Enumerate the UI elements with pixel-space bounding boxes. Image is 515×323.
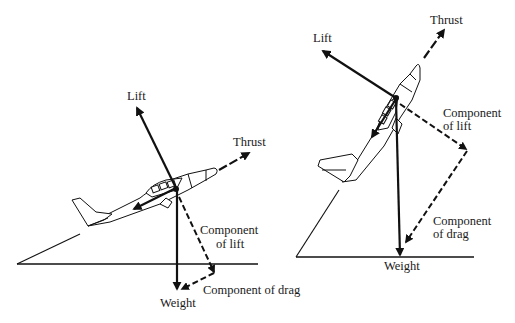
right-airplane-icon — [318, 64, 420, 182]
left-weight-label: Weight — [160, 296, 196, 310]
left-component-of-lift-label-2: of lift — [216, 237, 245, 251]
right-weight-label: Weight — [384, 259, 420, 273]
right-component-of-lift-label-2: of lift — [443, 119, 472, 133]
left-component-of-lift-label-1: Component — [200, 223, 259, 237]
left-airplane-icon — [72, 168, 217, 226]
right-lift-arrow — [323, 51, 396, 98]
right-thrust-label: Thrust — [430, 13, 463, 27]
left-component-of-drag-label: Component of drag — [203, 283, 301, 297]
right-component-of-drag-label-1: Component — [433, 214, 492, 228]
right-component-of-drag-label-2: of drag — [433, 227, 469, 241]
left-panel: Lift Thrust Component of lift Component … — [17, 89, 301, 310]
left-lift-arrow — [137, 108, 176, 188]
forces-diagram: Lift Thrust Component of lift Component … — [0, 0, 515, 323]
right-component-of-lift-label-1: Component — [443, 106, 502, 120]
right-thrust-arrow — [424, 30, 444, 58]
right-climb-path-line — [296, 190, 339, 257]
right-lift-label: Lift — [313, 31, 332, 45]
left-thrust-label: Thrust — [233, 135, 266, 149]
right-panel: Lift Thrust Component of lift Component … — [296, 13, 502, 273]
left-thrust-arrow — [219, 153, 249, 170]
left-lift-label: Lift — [127, 89, 146, 103]
left-climb-path-line — [17, 234, 80, 264]
